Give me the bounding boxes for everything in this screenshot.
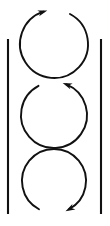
vortex-bottom xyxy=(22,149,86,211)
figure-canvas xyxy=(0,0,110,226)
vortex-bottom-arc xyxy=(22,149,86,209)
vortex-top-arc xyxy=(20,12,88,78)
vortex-top xyxy=(20,10,88,78)
vortex-middle-arc xyxy=(21,84,87,148)
vortex-middle xyxy=(21,83,87,148)
diagram-svg xyxy=(0,0,110,226)
